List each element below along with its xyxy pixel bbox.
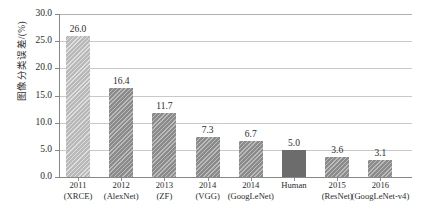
- bar: 3.1: [368, 160, 392, 177]
- bar: 26.0: [66, 36, 90, 177]
- bar-value-label: 16.4: [113, 76, 130, 87]
- gridline: [60, 41, 412, 42]
- y-tick-label: 30.0: [35, 9, 52, 19]
- y-axis-ticks: 0.05.010.015.020.025.030.0: [0, 14, 59, 178]
- x-axis-line: [59, 177, 412, 178]
- bar-value-label: 3.1: [374, 148, 386, 159]
- bar-chart-figure: 图像分类误差/(%) 0.05.010.015.020.025.030.0 26…: [0, 0, 431, 217]
- y-tick-label: 5.0: [40, 145, 52, 155]
- gridline: [60, 14, 412, 15]
- bar-value-label: 26.0: [70, 24, 87, 35]
- y-tick-label: 25.0: [35, 36, 52, 46]
- x-category-label: 2016(GoogLeNet-v4): [344, 180, 416, 201]
- x-category-line1: 2016: [344, 180, 416, 191]
- plot-area: 26.016.411.77.36.75.03.63.1: [59, 14, 412, 178]
- y-tick-label: 10.0: [35, 118, 52, 128]
- bar: 16.4: [109, 88, 133, 177]
- gridline: [60, 68, 412, 69]
- bar-value-label: 7.3: [202, 125, 214, 136]
- x-category-line2: (GoogLeNet): [215, 191, 287, 202]
- y-tick-label: 15.0: [35, 91, 52, 101]
- bar-value-label: 6.7: [245, 129, 257, 140]
- y-tick-label: 20.0: [35, 64, 52, 74]
- bar-value-label: 3.6: [331, 145, 343, 156]
- bar-value-label: 11.7: [156, 101, 172, 112]
- x-axis-category-labels: 2011(XRCE)2012(AlexNet)2013(ZF)2014(VGG)…: [59, 180, 431, 214]
- bar: 7.3: [196, 137, 220, 177]
- bar: 6.7: [239, 141, 263, 177]
- bar: 5.0: [282, 150, 306, 177]
- bar-value-label: 5.0: [288, 138, 300, 149]
- bar: 3.6: [325, 157, 349, 177]
- bar: 11.7: [152, 113, 176, 177]
- x-category-line2: (GoogLeNet-v4): [344, 191, 416, 202]
